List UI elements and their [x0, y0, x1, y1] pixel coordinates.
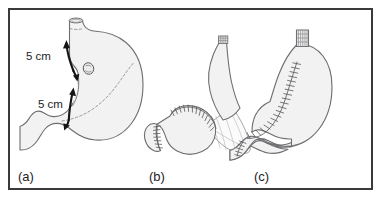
panel-label-b: (b) [149, 169, 165, 184]
panel-a-stomach [20, 18, 143, 150]
gastric-remnant-b [157, 106, 216, 154]
stomach-outline-a [20, 21, 143, 151]
jejunal-limb [209, 42, 240, 120]
esophagus-lumen [72, 19, 81, 22]
panel-c: (c) [230, 30, 332, 184]
distal-margin-label: 5 cm [38, 98, 63, 110]
distal-arrowhead [69, 88, 76, 97]
figure-illustration: 5 cm 5 cm (a) [0, 0, 381, 198]
surgical-figure: 5 cm 5 cm (a) [0, 0, 381, 198]
panel-label-a: (a) [18, 169, 34, 184]
panel-a: 5 cm 5 cm (a) [18, 18, 143, 184]
panel-b: (b) [144, 36, 250, 184]
panel-label-c: (c) [254, 169, 269, 184]
jejunal-stapled-end [219, 36, 228, 44]
gastric-tube-body-c [230, 44, 332, 161]
proximal-margin-label: 5 cm [26, 50, 51, 62]
